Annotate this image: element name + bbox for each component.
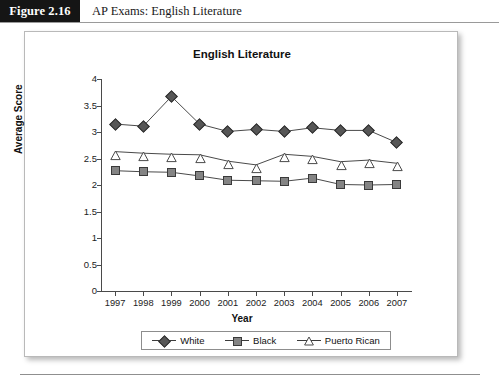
y-tick-mark xyxy=(97,132,101,133)
x-tick-mark xyxy=(256,292,257,296)
data-point-marker xyxy=(392,158,403,176)
y-tick-mark xyxy=(97,265,101,266)
x-tick-mark xyxy=(312,292,313,296)
data-point-marker xyxy=(278,125,291,138)
x-tick-mark xyxy=(200,292,201,296)
y-tick-mark xyxy=(97,159,101,160)
legend-label-black: Black xyxy=(253,335,276,346)
x-tick-mark xyxy=(284,292,285,296)
data-point-marker xyxy=(307,151,318,169)
header-divider xyxy=(0,22,499,23)
data-point-marker xyxy=(308,174,317,183)
data-point-marker xyxy=(139,167,148,176)
data-point-marker xyxy=(336,180,345,189)
y-axis-label: Average Score xyxy=(13,84,24,154)
data-point-marker xyxy=(362,124,375,137)
data-point-marker xyxy=(392,180,401,189)
data-point-marker xyxy=(251,160,262,178)
x-tick-mark xyxy=(143,292,144,296)
y-tick-mark xyxy=(97,212,101,213)
figure-caption: AP Exams: English Literature xyxy=(80,0,499,22)
data-point-marker xyxy=(166,149,177,167)
data-point-marker xyxy=(165,90,178,103)
data-point-marker xyxy=(280,177,289,186)
footer-divider xyxy=(20,374,480,375)
diamond-marker-icon xyxy=(152,335,176,346)
data-point-marker xyxy=(223,176,232,185)
legend-label-puerto-rican: Puerto Rican xyxy=(325,335,380,346)
square-marker-icon xyxy=(225,335,249,346)
y-tick-mark xyxy=(97,79,101,80)
data-point-marker xyxy=(334,124,347,137)
x-tick-mark xyxy=(228,292,229,296)
data-point-marker xyxy=(364,181,373,190)
chart-legend: White Black Puerto Rican xyxy=(141,331,391,350)
figure-header: Figure 2.16 AP Exams: English Literature xyxy=(0,0,499,22)
legend-item-white[interactable]: White xyxy=(152,335,204,346)
data-point-marker xyxy=(193,118,206,131)
chart-card: English Literature Average Score Year 00… xyxy=(24,31,458,357)
figure-number-badge: Figure 2.16 xyxy=(0,0,80,22)
y-tick-mark xyxy=(97,106,101,107)
x-tick-mark xyxy=(171,292,172,296)
triangle-marker-icon xyxy=(297,335,321,346)
data-point-marker xyxy=(391,136,404,149)
x-tick-mark xyxy=(115,292,116,296)
y-tick-mark xyxy=(97,185,101,186)
x-tick-mark xyxy=(341,292,342,296)
data-point-marker xyxy=(336,157,347,175)
data-point-marker xyxy=(138,148,149,166)
x-tick-mark xyxy=(369,292,370,296)
y-tick-mark xyxy=(97,238,101,239)
data-point-marker xyxy=(250,123,263,136)
data-point-marker xyxy=(195,150,206,168)
y-tick-mark xyxy=(97,291,101,292)
data-point-marker xyxy=(110,147,121,165)
legend-item-black[interactable]: Black xyxy=(225,335,276,346)
legend-item-puerto-rican[interactable]: Puerto Rican xyxy=(297,335,380,346)
data-point-marker xyxy=(221,125,234,138)
data-point-marker xyxy=(195,171,204,180)
data-point-marker xyxy=(137,120,150,133)
data-point-marker xyxy=(306,121,319,134)
legend-label-white: White xyxy=(180,335,204,346)
data-point-marker xyxy=(279,149,290,167)
data-point-marker xyxy=(109,118,122,131)
x-tick-label: 2007 xyxy=(377,298,417,308)
data-point-marker xyxy=(364,155,375,173)
x-tick-mark xyxy=(397,292,398,296)
plot-markers xyxy=(25,32,459,358)
data-point-marker xyxy=(223,156,234,174)
data-point-marker xyxy=(167,168,176,177)
data-point-marker xyxy=(111,166,120,175)
